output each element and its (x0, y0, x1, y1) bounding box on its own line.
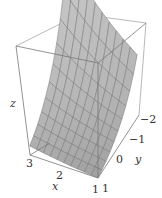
z-axis-label: z (10, 98, 16, 109)
y-tick-minus1: −1 (129, 134, 145, 145)
y-tick-1: 1 (102, 183, 109, 194)
surface-plot (0, 0, 162, 198)
surface-mesh (30, 0, 138, 178)
x-tick-3: 3 (26, 158, 33, 169)
y-axis-label: y (135, 154, 141, 165)
y-tick-0: 0 (116, 154, 123, 165)
x-axis-label: x (52, 181, 58, 192)
x-tick-1: 1 (92, 184, 99, 195)
y-tick-minus2: −2 (140, 114, 156, 125)
